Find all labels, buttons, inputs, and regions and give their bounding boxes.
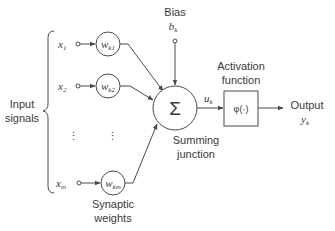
- activation-function-label-line2: function: [222, 74, 261, 86]
- input-x1-label: x1: [57, 38, 66, 52]
- weight-to-sum-arrow-1: [120, 44, 163, 91]
- bias-label: Bias: [164, 6, 186, 18]
- weights-ellipsis: ⋮: [107, 130, 118, 142]
- diagram-canvas: Input signals x1 wk1 x2 wk2 ⋮ ⋮ xm wkm S…: [0, 0, 335, 231]
- input-signals-label: Input: [10, 98, 34, 110]
- summing-junction-label-line2: junction: [176, 148, 215, 160]
- output-symbol: yk: [300, 113, 310, 127]
- neuron-model-diagram: Input signals x1 wk1 x2 wk2 ⋮ ⋮ xm wkm S…: [0, 0, 335, 231]
- bias-symbol: bk: [169, 20, 179, 34]
- input-node-1: [76, 42, 80, 46]
- output-label: Output: [290, 99, 323, 111]
- input-brace: [43, 31, 54, 193]
- input-row-2: x2 wk2: [57, 74, 153, 100]
- input-xm-label: xm: [55, 177, 66, 191]
- input-node-2: [76, 84, 80, 88]
- synaptic-weights-label: Synaptic: [92, 198, 135, 210]
- weight-to-sum-arrow-m: [125, 124, 157, 183]
- input-node-m: [77, 181, 81, 185]
- phi-symbol: φ(·): [234, 104, 249, 114]
- activation-function-label: Activation: [217, 60, 265, 72]
- inputs-ellipsis: ⋮: [68, 130, 79, 142]
- summing-junction-label: Summing: [173, 134, 219, 146]
- bias-node: [173, 39, 177, 43]
- sigma-symbol: Σ: [169, 98, 181, 119]
- induced-field-label: uk: [204, 92, 214, 106]
- weight-to-sum-arrow-2: [120, 86, 153, 100]
- input-x2-label: x2: [57, 80, 67, 94]
- synaptic-weights-label-line2: weights: [93, 212, 132, 224]
- input-signals-label-line2: signals: [5, 112, 40, 124]
